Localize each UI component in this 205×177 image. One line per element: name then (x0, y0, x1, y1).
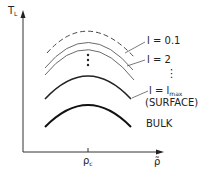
label-l-0.1: l = 0.1 (147, 36, 180, 46)
x-axis-label: ρ̃ (154, 157, 160, 167)
label-l-max: l = lmax (149, 86, 182, 97)
curve-l-max-surface (45, 76, 131, 99)
leader-l-2 (127, 60, 145, 66)
rho-c-label: ρc (83, 156, 93, 167)
label-ellipsis: ⋮ (166, 68, 177, 79)
x-axis-arrow-icon (156, 150, 164, 155)
y-axis-arrow-icon (21, 10, 26, 18)
curve-bulk (45, 105, 131, 127)
ellipsis-dot (87, 54, 89, 56)
ellipsis-dot (87, 59, 89, 61)
ellipsis-dot (87, 64, 89, 66)
curve-l-0.1 (45, 42, 133, 70)
label-l-2: l = 2 (147, 55, 171, 65)
y-axis-label: TL (8, 6, 17, 17)
leader-l-0.1 (125, 42, 145, 53)
label-bulk: BULK (146, 119, 172, 129)
label-surface: (SURFACE) (145, 98, 198, 108)
curve-dashed (47, 31, 135, 58)
